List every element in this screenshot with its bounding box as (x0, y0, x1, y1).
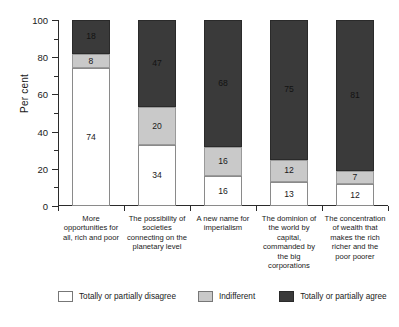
bar-value-indifferent: 12 (284, 166, 294, 175)
bar-segment-agree: 68 (204, 20, 242, 147)
bar-segment-disagree: 12 (336, 184, 374, 206)
bar-value-disagree: 34 (152, 171, 162, 180)
y-tick-100 (52, 20, 58, 21)
y-tick-label-60: 60 (4, 89, 48, 100)
x-tick-end (388, 206, 389, 211)
bar-value-disagree: 12 (350, 191, 360, 200)
stacked-bar-chart: Per cent 100 80 60 40 20 0 18 8 74 47 20… (0, 0, 399, 327)
bar-segment-disagree: 16 (204, 176, 242, 206)
category-label-1: Moreopportunities forall, rich and poor (58, 214, 124, 242)
category-label-2: The possibility ofsocietiesconnecting on… (124, 214, 190, 252)
category-label-4: The dominion ofthe world bycapital,comma… (256, 214, 322, 270)
y-tick-20 (52, 169, 58, 170)
bar-value-agree: 81 (350, 91, 360, 100)
y-tick-label-100: 100 (4, 15, 48, 26)
y-axis-line (58, 20, 59, 206)
x-tick-4 (322, 206, 323, 211)
y-tick-50 (54, 113, 58, 114)
bar-segment-agree: 47 (138, 20, 176, 107)
bar-segment-indifferent: 8 (72, 54, 110, 69)
legend-swatch-agree (279, 291, 294, 302)
bar-segment-indifferent: 20 (138, 107, 176, 144)
bar-segment-disagree: 13 (270, 182, 308, 206)
legend-swatch-disagree (58, 291, 73, 302)
bar-segment-indifferent: 7 (336, 171, 374, 184)
bar-value-agree: 75 (284, 85, 294, 94)
x-tick-2 (190, 206, 191, 211)
bar-value-agree: 47 (152, 59, 162, 68)
y-tick-40 (52, 132, 58, 133)
legend-item-disagree: Totally or partially disagree (58, 291, 176, 302)
x-tick-3 (256, 206, 257, 211)
category-label-3: A new name forimperialism (190, 214, 256, 233)
chart-legend: Totally or partially disagree Indifferen… (58, 291, 390, 302)
y-tick-90 (54, 39, 58, 40)
bar-value-disagree: 16 (218, 187, 228, 196)
y-tick-10 (54, 187, 58, 188)
bar-value-disagree: 13 (284, 190, 294, 199)
bar-segment-indifferent: 16 (204, 147, 242, 177)
bar-value-indifferent: 8 (89, 57, 94, 66)
bar-value-indifferent: 20 (152, 122, 162, 131)
bar-segment-disagree: 74 (72, 68, 110, 206)
legend-item-indifferent: Indifferent (198, 291, 255, 302)
bar-segment-indifferent: 12 (270, 160, 308, 182)
bar-value-agree: 18 (86, 32, 96, 41)
bar-value-disagree: 74 (86, 133, 96, 142)
legend-item-agree: Totally or partially agree (279, 291, 386, 302)
y-tick-60 (52, 94, 58, 95)
y-tick-label-20: 20 (4, 164, 48, 175)
x-tick-start (58, 206, 59, 211)
legend-label-indifferent: Indifferent (219, 292, 255, 301)
y-tick-70 (54, 76, 58, 77)
bar-segment-agree: 75 (270, 20, 308, 160)
x-tick-1 (124, 206, 125, 211)
bar-value-indifferent: 16 (218, 157, 228, 166)
bar-segment-disagree: 34 (138, 145, 176, 206)
legend-label-disagree: Totally or partially disagree (79, 292, 176, 301)
y-tick-label-80: 80 (4, 52, 48, 63)
y-tick-80 (52, 57, 58, 58)
legend-swatch-indifferent (198, 291, 213, 302)
bar-segment-agree: 81 (336, 20, 374, 171)
bar-value-agree: 68 (218, 79, 228, 88)
y-tick-label-0: 0 (4, 201, 48, 212)
bar-value-indifferent: 7 (353, 173, 358, 182)
y-tick-label-40: 40 (4, 127, 48, 138)
category-label-5: The concentrationof wealth thatmakes the… (322, 214, 388, 261)
bar-segment-agree: 18 (72, 20, 110, 54)
legend-label-agree: Totally or partially agree (300, 292, 386, 301)
y-tick-30 (54, 150, 58, 151)
